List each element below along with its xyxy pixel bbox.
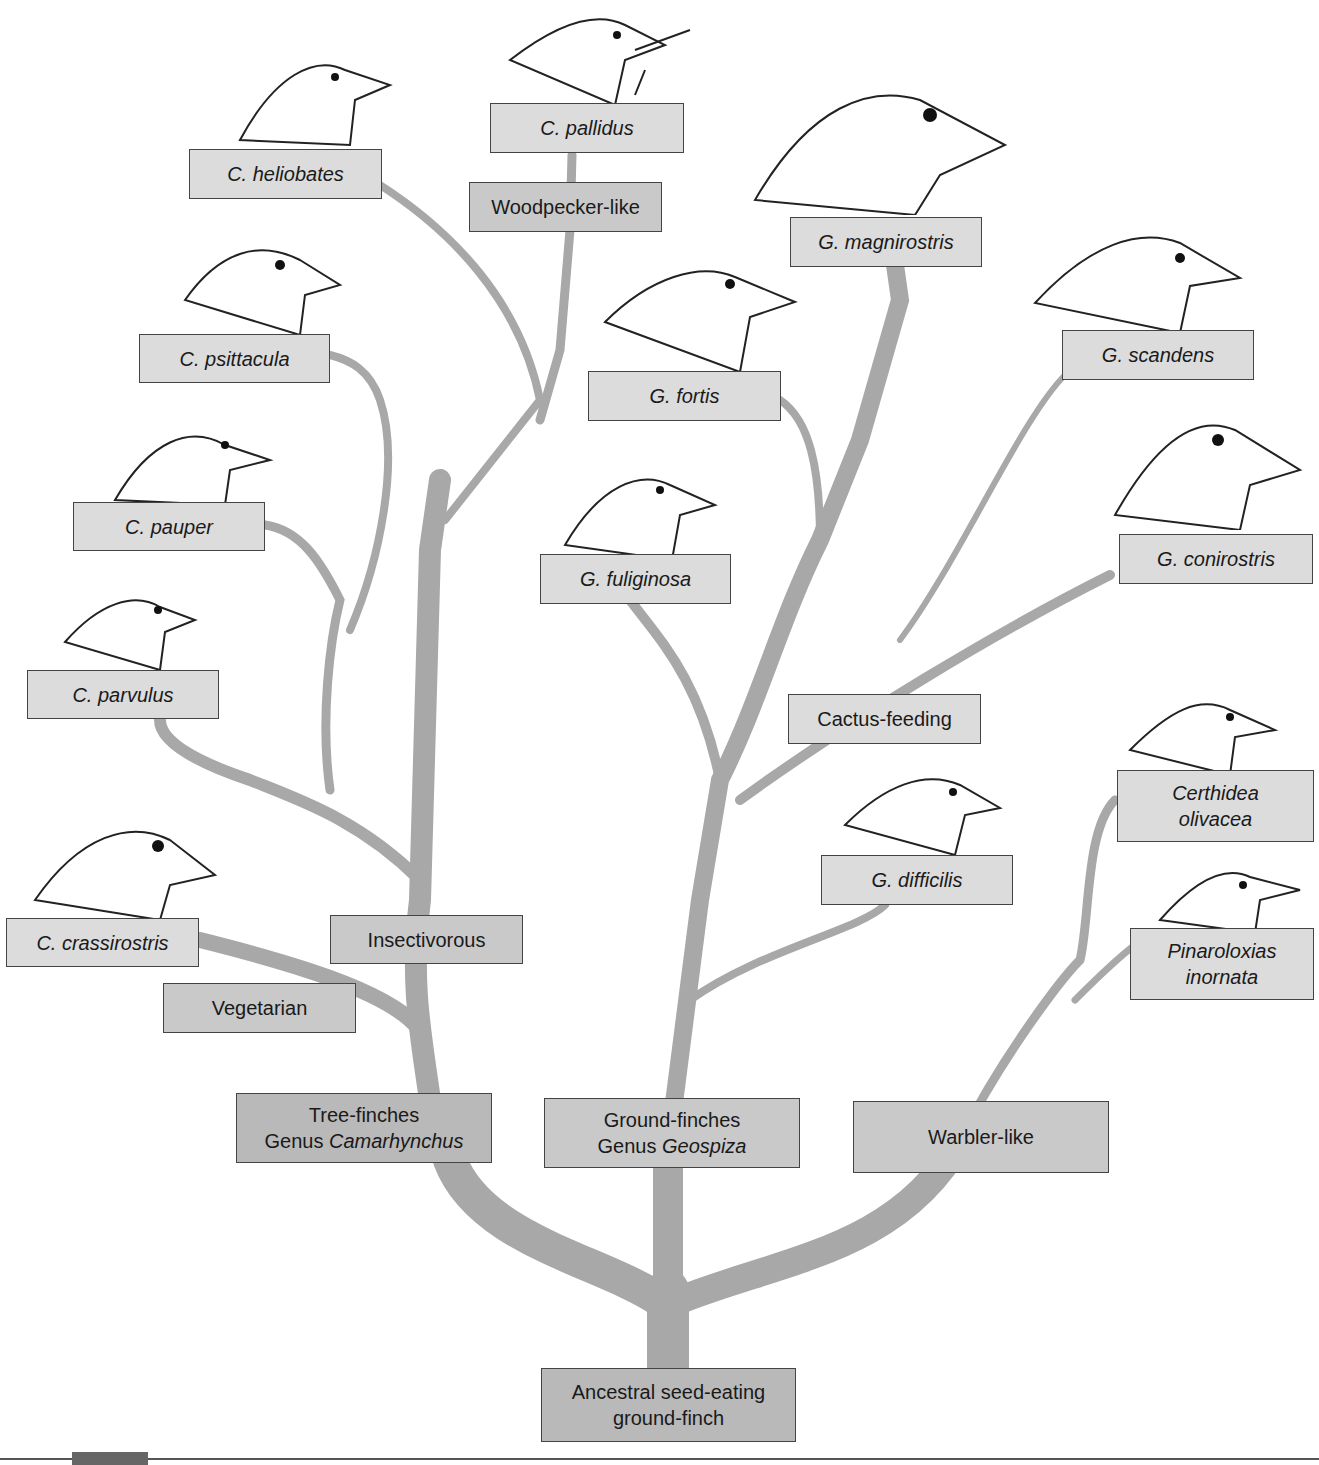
diet-insectivorous: Insectivorous [330, 915, 523, 964]
group-warbler-like: Warbler-like [853, 1101, 1109, 1173]
species-label: G. magnirostris [818, 229, 954, 255]
species-g-difficilis: G. difficilis [821, 855, 1013, 905]
root-label-line1: Ancestral seed-eating [572, 1379, 765, 1405]
finch-head-icon [60, 592, 200, 670]
species-label: G. fuliginosa [580, 566, 691, 592]
species-c-heliobates: C. heliobates [189, 149, 382, 199]
species-c-pallidus: C. pallidus [490, 103, 684, 153]
root-ancestral-finch: Ancestral seed-eating ground-finch [541, 1368, 796, 1442]
genus-prefix: Genus [265, 1130, 329, 1152]
species-label-genus: Certhidea [1172, 780, 1259, 806]
species-g-fortis: G. fortis [588, 371, 781, 421]
finch-head-icon [560, 470, 720, 560]
finch-head-icon [1125, 695, 1280, 775]
species-label: C. heliobates [227, 161, 344, 187]
footer-block [72, 1452, 148, 1465]
finch-head-icon [180, 240, 345, 335]
genus-name: Geospiza [662, 1135, 747, 1157]
species-label-genus: Pinaroloxias [1168, 938, 1277, 964]
diet-woodpecker-like: Woodpecker-like [469, 182, 662, 232]
group-tree-finches: Tree-finches Genus Camarhynchus [236, 1093, 492, 1163]
finch-head-icon [505, 10, 705, 105]
group-ground-finches: Ground-finches Genus Geospiza [544, 1098, 800, 1168]
species-label: G. fortis [649, 383, 719, 409]
species-g-fuliginosa: G. fuliginosa [540, 554, 731, 604]
species-c-crassirostris: C. crassirostris [6, 918, 199, 967]
species-label: C. parvulus [72, 682, 173, 708]
diet-label: Insectivorous [368, 927, 486, 953]
finch-head-icon [30, 820, 220, 920]
diet-vegetarian: Vegetarian [163, 983, 356, 1033]
finch-head-icon [1155, 865, 1305, 933]
species-label: C. psittacula [179, 346, 289, 372]
diet-label: Woodpecker-like [491, 194, 640, 220]
diet-label: Cactus-feeding [817, 706, 952, 732]
finch-head-icon [1030, 228, 1245, 333]
genus-name: Camarhynchus [329, 1130, 464, 1152]
species-g-scandens: G. scandens [1062, 330, 1254, 380]
group-genus-line: Genus Camarhynchus [265, 1128, 464, 1154]
group-label: Warbler-like [928, 1124, 1034, 1150]
species-g-magnirostris: G. magnirostris [790, 217, 982, 267]
species-g-conirostris: G. conirostris [1119, 534, 1313, 584]
species-label: C. pallidus [540, 115, 633, 141]
group-label: Ground-finches [604, 1107, 741, 1133]
root-label-line2: ground-finch [613, 1405, 724, 1431]
species-c-pauper: C. pauper [73, 502, 265, 551]
species-c-parvulus: C. parvulus [27, 670, 219, 719]
species-label: G. difficilis [871, 867, 962, 893]
diet-label: Vegetarian [212, 995, 308, 1021]
species-pinaroloxias-inornata: Pinaroloxias inornata [1130, 928, 1314, 1000]
finch-head-icon [110, 425, 275, 505]
finch-head-icon [235, 55, 395, 150]
species-label: G. conirostris [1157, 546, 1275, 572]
group-genus-line: Genus Geospiza [598, 1133, 747, 1159]
finch-head-icon [600, 262, 800, 372]
footer-rule [0, 1458, 1319, 1460]
species-certhidea-olivacea: Certhidea olivacea [1117, 770, 1314, 842]
finch-head-icon [750, 85, 1010, 215]
species-label: G. scandens [1102, 342, 1214, 368]
finch-head-icon [1110, 415, 1305, 530]
species-label: C. pauper [125, 514, 213, 540]
diet-cactus-feeding: Cactus-feeding [788, 694, 981, 744]
species-label-epithet: olivacea [1179, 806, 1252, 832]
genus-prefix: Genus [598, 1135, 662, 1157]
finch-head-icon [840, 770, 1005, 855]
species-label-epithet: inornata [1186, 964, 1258, 990]
species-label: C. crassirostris [36, 930, 168, 956]
species-c-psittacula: C. psittacula [139, 334, 330, 383]
group-label: Tree-finches [309, 1102, 419, 1128]
